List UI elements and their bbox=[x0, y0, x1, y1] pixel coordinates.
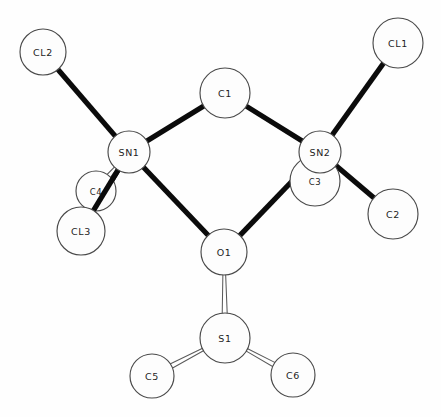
atom-cl2[interactable]: CL2 bbox=[20, 29, 66, 75]
bond-sn1-o1 bbox=[143, 166, 209, 236]
atom-sn1[interactable]: SN1 bbox=[108, 131, 150, 173]
atoms-layer: C3C4CL2CL1C1CL3C2O1S1C5C6SN1SN2 bbox=[20, 18, 423, 398]
bond-sn1-c1 bbox=[146, 106, 205, 142]
atom-label-c1: C1 bbox=[218, 88, 232, 99]
bond-c1-sn2 bbox=[245, 106, 303, 142]
bond-s1-c6 bbox=[245, 348, 275, 367]
bond-cl2-sn1 bbox=[57, 69, 116, 137]
atom-label-c5: C5 bbox=[145, 371, 159, 382]
atom-c6[interactable]: C6 bbox=[271, 353, 315, 397]
bond-o1-s1 bbox=[222, 274, 227, 314]
molecule-canvas: C3C4CL2CL1C1CL3C2O1S1C5C6SN1SN2 bbox=[0, 0, 441, 417]
atom-c2[interactable]: C2 bbox=[368, 189, 418, 239]
atom-label-c6: C6 bbox=[286, 370, 300, 381]
atom-s1[interactable]: S1 bbox=[200, 313, 250, 363]
bond-cl1-sn2 bbox=[332, 63, 384, 136]
atom-c1[interactable]: C1 bbox=[200, 68, 250, 118]
atom-label-o1: O1 bbox=[217, 247, 232, 258]
atom-label-cl1: CL1 bbox=[388, 38, 408, 49]
atom-cl3[interactable]: CL3 bbox=[57, 207, 105, 255]
atom-c5[interactable]: C5 bbox=[130, 354, 174, 398]
atom-sn2[interactable]: SN2 bbox=[299, 131, 341, 173]
molecule-diagram: C3C4CL2CL1C1CL3C2O1S1C5C6SN1SN2 bbox=[0, 0, 441, 417]
atom-label-s1: S1 bbox=[218, 333, 231, 344]
bond-s1-c5 bbox=[170, 348, 205, 369]
atom-label-sn2: SN2 bbox=[310, 147, 331, 158]
atom-label-c3: C3 bbox=[309, 177, 322, 187]
atom-label-cl3: CL3 bbox=[71, 226, 91, 237]
atom-label-cl2: CL2 bbox=[33, 47, 53, 58]
atom-label-c2: C2 bbox=[386, 209, 400, 220]
atom-label-sn1: SN1 bbox=[119, 147, 140, 158]
atom-o1[interactable]: O1 bbox=[201, 229, 247, 275]
atom-cl1[interactable]: CL1 bbox=[373, 18, 423, 68]
bond-sn2-c2 bbox=[335, 165, 374, 199]
